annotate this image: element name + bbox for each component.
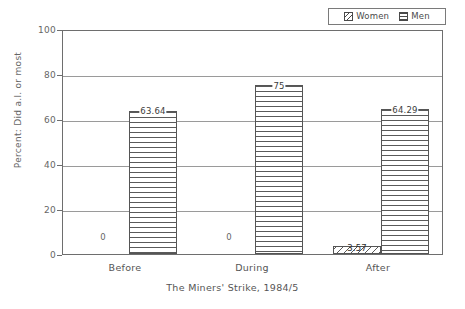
bar-men-during bbox=[255, 85, 303, 254]
y-tickmark-0 bbox=[57, 255, 62, 256]
y-tick-60: 60 bbox=[30, 116, 56, 125]
y-tick-80: 80 bbox=[30, 71, 56, 80]
value-label-women-during: 0 bbox=[225, 233, 233, 242]
legend-label-women: Women bbox=[356, 12, 389, 21]
bar-fill-men-during bbox=[256, 86, 302, 253]
bar-chart: Women Men 100 80 60 40 20 0 Percent: Did… bbox=[0, 0, 465, 309]
x-tick-before: Before bbox=[109, 262, 142, 273]
gridline-80 bbox=[63, 76, 442, 77]
value-label-men-before: 63.64 bbox=[139, 107, 166, 116]
x-axis-title: The Miners' Strike, 1984/5 bbox=[0, 282, 465, 293]
value-label-women-after: 3.57 bbox=[346, 244, 368, 253]
y-tick-0: 0 bbox=[30, 251, 56, 260]
bar-fill-men-after bbox=[382, 110, 428, 253]
value-label-women-before: 0 bbox=[99, 233, 107, 242]
x-tick-during: During bbox=[235, 262, 269, 273]
bar-fill-men-before bbox=[130, 112, 176, 253]
chart-legend: Women Men bbox=[328, 8, 446, 25]
y-tick-20: 20 bbox=[30, 206, 56, 215]
bar-men-before bbox=[129, 111, 177, 254]
y-axis-title: Percent: Did a.l. or most bbox=[13, 20, 23, 200]
legend-entry-women: Women bbox=[344, 12, 389, 21]
y-tick-40: 40 bbox=[30, 161, 56, 170]
plot-area: 0 63.64 0 75 3.57 64.29 bbox=[62, 30, 443, 255]
value-label-men-during: 75 bbox=[272, 82, 285, 91]
x-tick-after: After bbox=[366, 262, 390, 273]
y-axis-ticks: 100 80 60 40 20 0 bbox=[28, 0, 56, 309]
legend-swatch-men-icon bbox=[399, 12, 408, 21]
legend-entry-men: Men bbox=[399, 12, 430, 21]
value-label-men-after: 64.29 bbox=[391, 106, 418, 115]
bar-men-after bbox=[381, 109, 429, 254]
legend-label-men: Men bbox=[411, 12, 430, 21]
legend-swatch-women-icon bbox=[344, 12, 353, 21]
y-tick-100: 100 bbox=[30, 26, 56, 35]
